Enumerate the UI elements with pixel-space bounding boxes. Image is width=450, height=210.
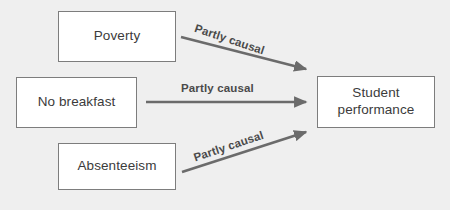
node-student-performance-label-line2: performance bbox=[338, 102, 415, 117]
node-student-performance: Student performance bbox=[317, 76, 435, 128]
node-poverty-label: Poverty bbox=[94, 28, 140, 45]
node-student-performance-label-line1: Student bbox=[352, 85, 399, 100]
node-poverty: Poverty bbox=[58, 11, 176, 62]
edge-label-absenteeism-to-performance: Partly causal bbox=[192, 129, 265, 164]
node-absenteeism-label: Absenteeism bbox=[77, 158, 156, 175]
edge-label-no-breakfast-to-performance: Partly causal bbox=[181, 82, 254, 94]
node-no-breakfast: No breakfast bbox=[16, 77, 137, 128]
node-absenteeism: Absenteeism bbox=[58, 143, 176, 190]
node-student-performance-label: Student performance bbox=[338, 85, 415, 119]
diagram-canvas: Poverty No breakfast Absenteeism Student… bbox=[0, 0, 450, 210]
edge-label-poverty-to-performance: Partly causal bbox=[193, 22, 266, 57]
node-no-breakfast-label: No breakfast bbox=[38, 94, 116, 111]
